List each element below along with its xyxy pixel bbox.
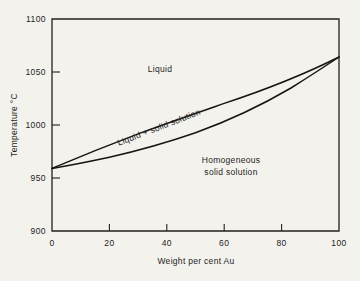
y-axis-title: Temperature °C [9,93,19,157]
x-tick-label-0: 0 [49,238,54,248]
y-tick-label-1000: 1000 [25,120,46,130]
y-tick-label-1100: 1100 [26,14,46,24]
y-tick-label-1050: 1050 [25,67,46,77]
x-tick-label-80: 80 [276,238,286,248]
region-label-solid-solution: solid solution [204,167,257,177]
x-tick-label-40: 40 [162,238,172,248]
x-axis-title: Weight per cent Au [157,256,234,266]
x-tick-label-20: 20 [104,238,114,248]
phase-diagram-figure: 1100 1050 1000 950 900 0 20 40 60 80 100… [0,0,360,281]
region-label-liquid: Liquid [148,64,173,74]
figure-page: 1100 1050 1000 950 900 0 20 40 60 80 100… [0,0,360,281]
region-label-homogeneous: Homogeneous [202,155,261,165]
x-tick-label-100: 100 [331,238,346,248]
y-tick-label-900: 900 [31,226,46,236]
x-tick-label-60: 60 [219,238,229,248]
y-tick-label-950: 950 [31,173,46,183]
